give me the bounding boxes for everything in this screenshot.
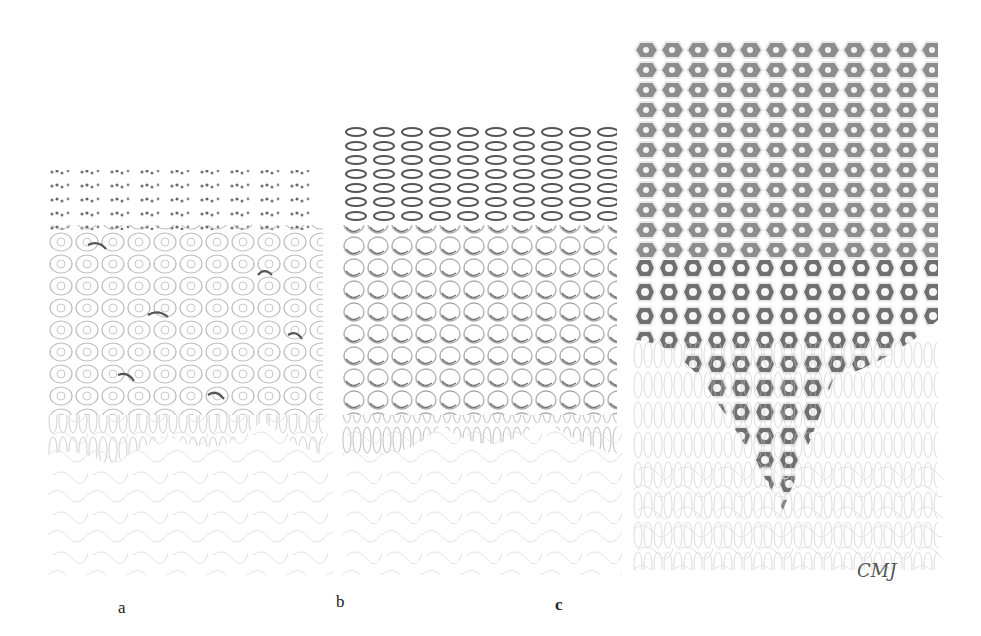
panel-label-a: a: [118, 598, 126, 618]
artist-signature: CMJ: [857, 560, 896, 581]
panel-label-b: b: [336, 592, 345, 612]
panel-b-illustration: [342, 125, 622, 575]
panel-c-illustration: [633, 40, 943, 570]
panel-label-c: c: [555, 595, 563, 615]
panel-a-illustration: [48, 165, 333, 575]
